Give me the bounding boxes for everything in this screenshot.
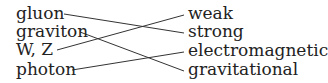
- force-electromagnetic: electromagnetic: [188, 42, 328, 59]
- line-graviton-gravitational: [80, 32, 184, 71]
- force-gravitational: gravitational: [188, 61, 298, 78]
- particle-wz: W, Z: [16, 41, 53, 58]
- particle-photon: photon: [16, 61, 76, 78]
- particle-graviton: graviton: [16, 23, 88, 40]
- force-weak: weak: [188, 5, 233, 22]
- line-photon-electromagnetic: [72, 52, 184, 70]
- particle-gluon: gluon: [16, 5, 64, 22]
- force-strong: strong: [188, 23, 244, 40]
